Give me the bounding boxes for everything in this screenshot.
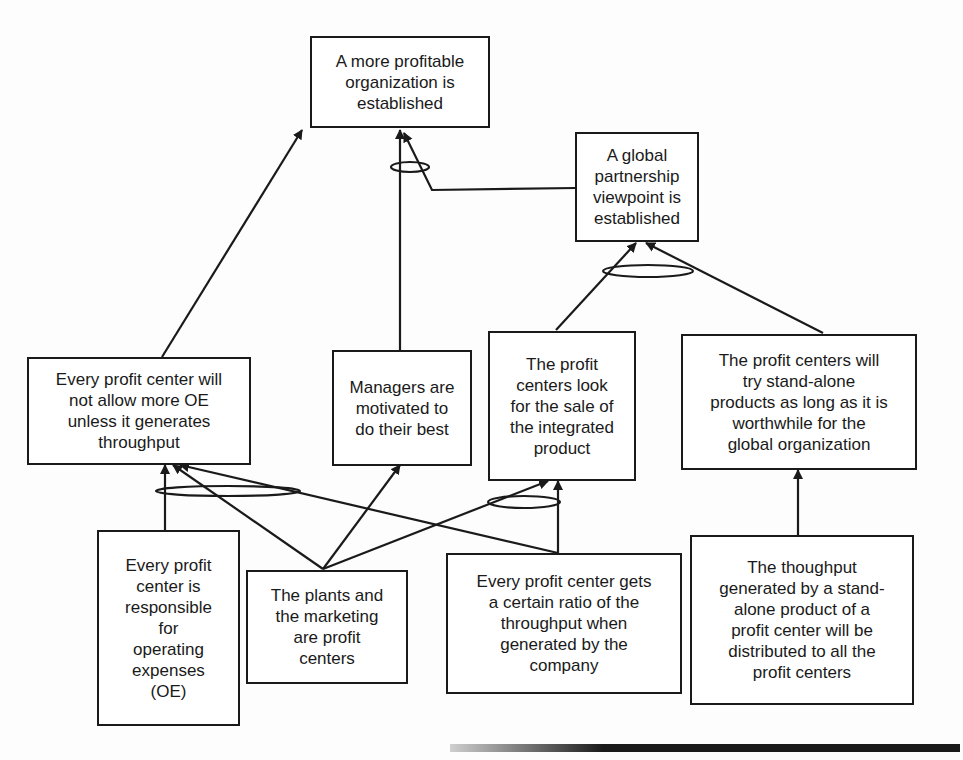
node-distributed-throughput: The thoughput generated by a stand- alon… (690, 535, 914, 705)
node-plants-marketing: The plants and the marketing are profit … (246, 570, 408, 684)
and-connector-1 (391, 162, 429, 172)
node-ratio-throughput: Every profit center gets a certain ratio… (446, 553, 682, 694)
edge-no-more-oe-to-profitable-org (162, 130, 302, 357)
and-connector-4 (488, 496, 560, 508)
diagram-canvas: A more profitable organization is establ… (0, 0, 963, 760)
edge-integrated-to-global (556, 243, 636, 330)
node-global-partnership: A global partnership viewpoint is establ… (575, 132, 699, 242)
node-managers-motivated: Managers are motivated to do their best (332, 350, 472, 466)
page-edge-bar (450, 744, 960, 752)
edge-global-to-profitable-org (404, 133, 576, 190)
and-connector-2 (603, 265, 693, 277)
and-connector-3 (156, 486, 300, 496)
edge-stand-alone-to-global (646, 243, 823, 333)
node-stand-alone-products: The profit centers will try stand-alone … (681, 334, 917, 470)
node-integrated-product: The profit centers look for the sale of … (488, 331, 636, 481)
node-no-more-oe: Every profit center will not allow more … (27, 357, 251, 465)
node-profitable-organization: A more profitable organization is establ… (310, 36, 490, 128)
node-responsible-oe: Every profit center is responsible for o… (97, 530, 240, 726)
